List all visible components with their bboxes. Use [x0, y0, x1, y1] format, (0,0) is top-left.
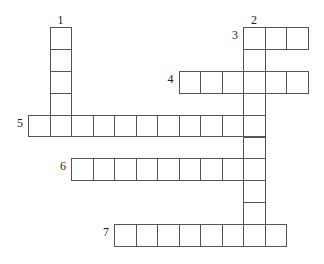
grid-cell[interactable]: [265, 27, 288, 50]
grid-cell[interactable]: [200, 158, 223, 181]
grid-cell[interactable]: [222, 115, 245, 138]
clue-number-4: 4: [168, 73, 174, 85]
grid-cell[interactable]: [222, 158, 245, 181]
grid-cell[interactable]: [136, 158, 159, 181]
grid-cell[interactable]: [200, 71, 223, 94]
grid-cell[interactable]: [179, 115, 202, 138]
clue-number-2: 2: [251, 14, 257, 26]
grid-cell[interactable]: [50, 71, 73, 94]
grid-cell[interactable]: [93, 158, 116, 181]
grid-cell[interactable]: [243, 137, 266, 160]
crossword-grid: 1234567: [0, 0, 324, 264]
grid-cell[interactable]: [222, 224, 245, 247]
clue-number-3: 3: [232, 29, 238, 41]
grid-cell[interactable]: [71, 158, 94, 181]
grid-cell[interactable]: [243, 49, 266, 72]
grid-cell[interactable]: [157, 224, 180, 247]
clue-number-7: 7: [103, 226, 109, 238]
grid-cell[interactable]: [200, 115, 223, 138]
grid-cell[interactable]: [50, 49, 73, 72]
grid-cell[interactable]: [222, 71, 245, 94]
grid-cell[interactable]: [136, 224, 159, 247]
grid-cell[interactable]: [157, 115, 180, 138]
grid-cell[interactable]: [114, 115, 137, 138]
grid-cell[interactable]: [243, 158, 266, 181]
grid-cell[interactable]: [179, 71, 202, 94]
grid-cell[interactable]: [93, 115, 116, 138]
grid-cell[interactable]: [243, 224, 266, 247]
grid-cell[interactable]: [114, 224, 137, 247]
clue-number-6: 6: [60, 160, 66, 172]
grid-cell[interactable]: [265, 71, 288, 94]
grid-cell[interactable]: [50, 115, 73, 138]
grid-cell[interactable]: [157, 158, 180, 181]
grid-cell[interactable]: [243, 202, 266, 225]
grid-cell[interactable]: [243, 27, 266, 50]
grid-cell[interactable]: [243, 115, 266, 138]
grid-cell[interactable]: [200, 224, 223, 247]
grid-cell[interactable]: [71, 115, 94, 138]
grid-cell[interactable]: [243, 71, 266, 94]
clue-number-5: 5: [17, 117, 23, 129]
grid-cell[interactable]: [243, 180, 266, 203]
grid-cell[interactable]: [114, 158, 137, 181]
grid-cell[interactable]: [243, 93, 266, 116]
grid-cell[interactable]: [179, 158, 202, 181]
grid-cell[interactable]: [50, 27, 73, 50]
grid-cell[interactable]: [286, 27, 309, 50]
grid-cell[interactable]: [50, 93, 73, 116]
grid-cell[interactable]: [28, 115, 51, 138]
grid-cell[interactable]: [265, 224, 288, 247]
clue-number-1: 1: [58, 14, 64, 26]
grid-cell[interactable]: [136, 115, 159, 138]
grid-cell[interactable]: [179, 224, 202, 247]
grid-cell[interactable]: [286, 71, 309, 94]
